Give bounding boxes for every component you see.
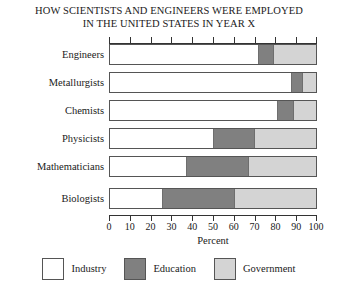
bar-segment-government (273, 45, 316, 64)
legend-swatch-government-icon (214, 258, 236, 280)
legend-label-government: Government (243, 263, 296, 275)
bar-segment-education (186, 157, 248, 176)
legend-swatch-education-icon (124, 258, 146, 280)
bar-segment-industry (110, 101, 277, 120)
legend-item-industry: Industry (42, 258, 106, 280)
bar-segment-education (277, 101, 293, 120)
axis-top-tick-10 (130, 37, 131, 43)
bar-row (109, 44, 317, 65)
xtick-label-30: 30 (166, 221, 176, 233)
xtick-label-20: 20 (146, 221, 156, 233)
axis-top-tick-30 (171, 37, 172, 43)
category-label-biologists: Biologists (0, 188, 104, 209)
axis-top-ticks (109, 37, 317, 43)
chart-legend: Industry Education Government (0, 254, 338, 284)
bar-segment-education (213, 129, 254, 148)
xtick-label-90: 90 (291, 221, 301, 233)
xtick-label-50: 50 (208, 221, 218, 233)
legend-item-government: Government (214, 258, 296, 280)
bar-segment-industry (110, 157, 186, 176)
category-label-metallurgists: Metallurgists (0, 72, 104, 93)
bar-segment-industry (110, 189, 162, 208)
chart-title-line-2: IN THE UNITED STATES IN YEAR X (0, 17, 338, 30)
bar-segment-government (293, 101, 316, 120)
bar-row (109, 72, 317, 93)
xtick-label-10: 10 (125, 221, 135, 233)
legend-label-industry: Industry (71, 263, 106, 275)
category-label-engineers: Engineers (0, 44, 104, 65)
bar-segment-industry (110, 45, 258, 64)
legend-swatch-industry-icon (42, 258, 64, 280)
axis-top-tick-60 (234, 37, 235, 43)
bar-segment-government (302, 73, 316, 92)
bar-segment-education (291, 73, 301, 92)
bar-segment-education (258, 45, 272, 64)
xtick-label-40: 40 (187, 221, 197, 233)
axis-top-tick-70 (255, 37, 256, 43)
axis-top-tick-50 (213, 37, 214, 43)
axis-top-tick-90 (296, 37, 297, 43)
xtick-label-60: 60 (229, 221, 239, 233)
chart-container: HOW SCIENTISTS AND ENGINEERS WERE EMPLOY… (0, 0, 338, 293)
chart-title-line-1: HOW SCIENTISTS AND ENGINEERS WERE EMPLOY… (0, 4, 338, 17)
axis-top-tick-100 (316, 37, 317, 43)
category-label-chemists: Chemists (0, 100, 104, 121)
bar-segment-industry (110, 129, 213, 148)
bar-segment-industry (110, 73, 291, 92)
legend-label-education: Education (153, 263, 196, 275)
xtick-label-80: 80 (270, 221, 280, 233)
x-axis-title: Percent (109, 234, 317, 247)
xtick-label-100: 100 (309, 221, 324, 233)
chart-title: HOW SCIENTISTS AND ENGINEERS WERE EMPLOY… (0, 4, 338, 30)
axis-top-tick-20 (151, 37, 152, 43)
bar-segment-government (248, 157, 316, 176)
category-label-mathematicians: Mathematicians (0, 156, 104, 177)
plot-area (109, 44, 317, 214)
axis-top-tick-80 (275, 37, 276, 43)
axis-top-tick-0 (109, 37, 110, 43)
bar-row (109, 100, 317, 121)
xtick-label-0: 0 (107, 221, 112, 233)
xtick-label-70: 70 (250, 221, 260, 233)
bar-row (109, 156, 317, 177)
bar-segment-education (162, 189, 234, 208)
bar-row (109, 188, 317, 209)
category-label-physicists: Physicists (0, 128, 104, 149)
axis-top-tick-40 (192, 37, 193, 43)
bar-segment-government (254, 129, 316, 148)
bar-segment-government (234, 189, 316, 208)
legend-item-education: Education (124, 258, 196, 280)
bar-row (109, 128, 317, 149)
